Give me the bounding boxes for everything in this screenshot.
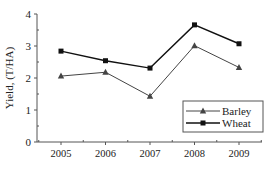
- series-lines: [58, 22, 242, 98]
- legend: BarleyWheat: [183, 101, 263, 132]
- square-marker: [192, 22, 197, 27]
- x-tick-label: 2007: [140, 148, 161, 159]
- square-marker: [59, 49, 64, 54]
- triangle-marker: [236, 64, 242, 70]
- y-tick-label: 1: [26, 104, 32, 116]
- y-tick-label: 0: [26, 136, 32, 148]
- series-line: [61, 25, 239, 68]
- legend-square-icon: [201, 121, 206, 126]
- square-marker: [103, 58, 108, 63]
- square-marker: [237, 41, 242, 46]
- y-tick-label: 3: [26, 40, 32, 52]
- triangle-marker: [191, 42, 197, 48]
- y-tick-label: 2: [26, 72, 32, 84]
- series-line: [61, 46, 239, 97]
- series-wheat: [59, 22, 242, 70]
- line-chart: 0123420052006200720082009 BarleyWheat Yi…: [0, 0, 273, 169]
- legend-label: Wheat: [222, 117, 251, 129]
- x-tick-label: 2009: [229, 148, 250, 159]
- y-tick-label: 4: [26, 8, 32, 20]
- triangle-marker: [102, 69, 108, 75]
- x-tick-label: 2005: [51, 148, 72, 159]
- x-tick-label: 2006: [95, 148, 116, 159]
- legend-label: Barley: [222, 105, 252, 117]
- square-marker: [148, 66, 153, 71]
- y-axis-label: Yield, (T/HA): [3, 47, 16, 110]
- x-tick-label: 2008: [184, 148, 205, 159]
- axes: 0123420052006200720082009: [26, 8, 263, 159]
